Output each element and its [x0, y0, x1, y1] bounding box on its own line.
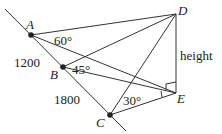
right-angle-mark-2 [161, 91, 162, 97]
height-label: height [180, 48, 213, 63]
right-angle-mark [166, 82, 176, 90]
label-e: E [176, 91, 185, 106]
label-a: A [25, 17, 34, 32]
angle-a-label: 60° [54, 33, 72, 48]
angle-b-label: 45° [72, 62, 90, 77]
line-ce [110, 93, 176, 115]
length-bc-label: 1800 [54, 92, 80, 107]
point-b [60, 64, 66, 70]
point-c [107, 112, 113, 118]
geometry-diagram: A B C D E 60° 45° 30° 1200 1800 height [0, 0, 222, 134]
label-c: C [96, 115, 105, 130]
label-d: D [177, 3, 188, 18]
angle-c-label: 30° [123, 93, 141, 108]
label-b: B [50, 67, 58, 82]
length-ab-label: 1200 [14, 55, 40, 70]
point-a [28, 32, 34, 38]
line-abc [5, 9, 126, 131]
line-ae [31, 35, 176, 93]
